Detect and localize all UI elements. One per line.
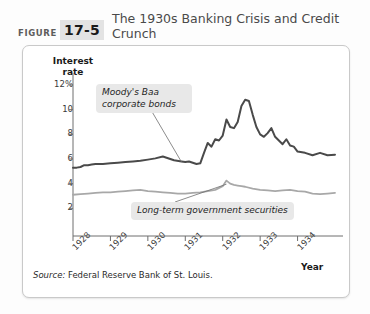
moodys-baa-callout: Moody's Baa corporate bonds: [96, 84, 192, 113]
figure-header: FIGURE 17-5 The 1930s Banking Crisis and…: [0, 4, 370, 44]
figure-label: FIGURE: [18, 28, 57, 38]
chart-panel: Interest rate Year 12%108642 19281929193…: [22, 45, 350, 298]
long-term-government-callout: Long-term government securities: [131, 202, 294, 220]
figure-title: The 1930s Banking Crisis and Credit Crun…: [112, 12, 362, 41]
figure-number: 17-5: [60, 20, 104, 40]
series-line: [73, 181, 335, 195]
source-note: Source: Federal Reserve Bank of St. Loui…: [33, 270, 213, 280]
data-series: [73, 100, 335, 195]
figure-root: FIGURE 17-5 The 1930s Banking Crisis and…: [0, 0, 370, 314]
source-text: Federal Reserve Bank of St. Louis.: [65, 270, 212, 280]
leader-line: [151, 110, 182, 162]
source-label: Source:: [33, 270, 65, 280]
